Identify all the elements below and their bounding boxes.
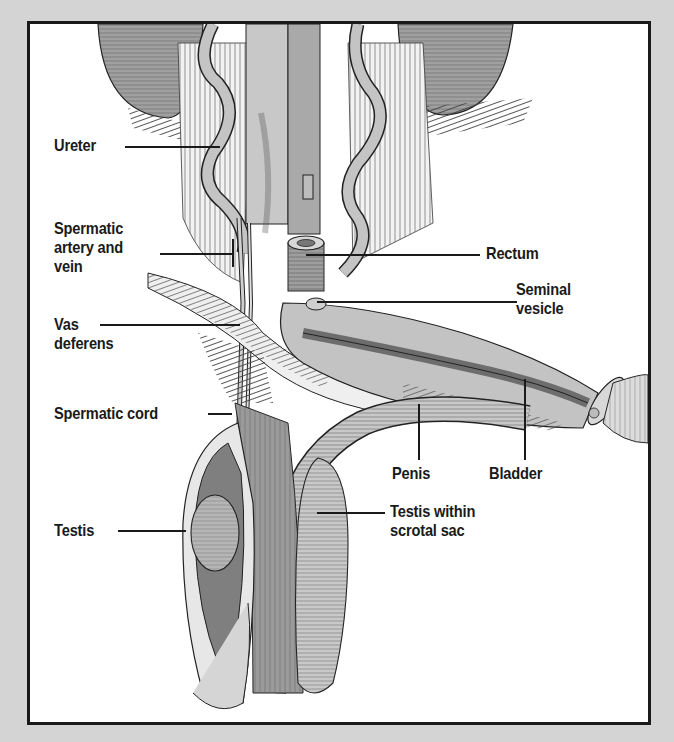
label-seminal-vesicle: Seminal vesicle	[516, 280, 571, 318]
label-spermatic-cord: Spermatic cord	[54, 404, 158, 423]
leader-seminal-vesicle	[317, 301, 517, 303]
leader-vas-deferens	[100, 324, 240, 326]
leader-testis-scrotal	[317, 512, 385, 514]
label-bladder: Bladder	[489, 464, 542, 483]
label-ureter: Ureter	[54, 136, 96, 155]
label-penis: Penis	[392, 464, 430, 483]
label-testis: Testis	[54, 521, 94, 540]
label-rectum: Rectum	[486, 244, 539, 263]
leader-spermatic-artery-bracket	[232, 239, 234, 267]
testis-right-scrotal	[296, 458, 349, 693]
label-vas-deferens: Vas deferens	[54, 315, 114, 353]
leader-testis	[118, 530, 186, 532]
diagram-frame: Ureter Spermatic artery and vein Vas def…	[27, 21, 651, 725]
label-spermatic-artery-and-vein: Spermatic artery and vein	[54, 219, 123, 276]
rectum	[288, 236, 324, 291]
testis-left	[183, 423, 254, 709]
leader-ureter	[125, 146, 220, 148]
leader-penis	[418, 404, 420, 460]
glans	[582, 372, 648, 443]
leader-spermatic-artery	[160, 253, 232, 255]
anatomy-illustration	[30, 24, 648, 722]
leader-spermatic-cord	[208, 413, 232, 415]
label-testis-within-scrotal-sac: Testis within scrotal sac	[390, 502, 475, 540]
leader-bladder	[524, 379, 526, 460]
leader-rectum	[306, 254, 480, 256]
